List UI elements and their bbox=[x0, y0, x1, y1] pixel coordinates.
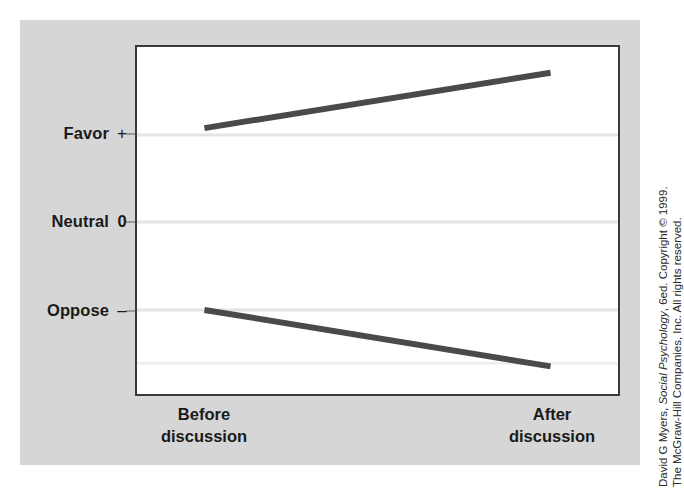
source-credit-line-1: David G Myers, Social Psychology, 6ed. C… bbox=[658, 186, 670, 487]
x-axis-label-before: Before discussion bbox=[133, 404, 275, 448]
x-axis-label-after: After discussion bbox=[481, 404, 623, 448]
plot-area bbox=[135, 45, 620, 396]
source-credit-title: Social Psychology bbox=[657, 311, 669, 404]
x-axis-label-before-line1: Before bbox=[133, 404, 275, 426]
source-credit-line-2: The McGraw-Hill Companies, Inc. All righ… bbox=[672, 217, 684, 487]
plot-svg bbox=[137, 47, 618, 394]
y-axis-label-favor-sign: + bbox=[109, 125, 135, 142]
source-credit: David G Myers, Social Psychology, 6ed. C… bbox=[645, 0, 681, 491]
y-axis-label-neutral-text: Neutral bbox=[51, 213, 109, 230]
gridlines bbox=[137, 135, 618, 363]
series-line-con bbox=[204, 310, 550, 366]
x-axis-label-after-line1: After bbox=[481, 404, 623, 426]
y-axis-label-oppose-text: Oppose bbox=[47, 302, 109, 319]
source-credit-edition: , 6ed. Copyright © 1999. bbox=[657, 186, 669, 311]
y-axis-label-oppose-sign: – bbox=[109, 302, 135, 319]
x-axis-label-before-line2: discussion bbox=[133, 426, 275, 448]
series-line-pro bbox=[204, 73, 550, 128]
x-axis-label-after-line2: discussion bbox=[481, 426, 623, 448]
y-axis-label-favor-text: Favor bbox=[64, 125, 109, 142]
source-credit-author: David G Myers, bbox=[657, 405, 669, 487]
y-axis-label-neutral-sign: 0 bbox=[109, 213, 135, 230]
